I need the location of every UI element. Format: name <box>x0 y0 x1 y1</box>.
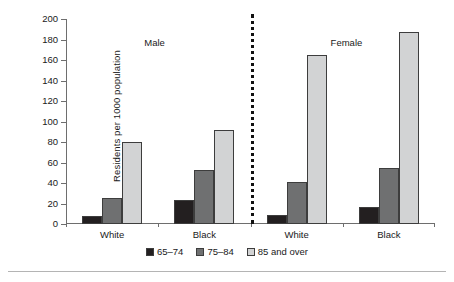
legend-item-label: 85 and over <box>258 246 308 257</box>
y-axis-tick-mark <box>61 81 66 82</box>
y-axis-tick-mark <box>61 40 66 41</box>
chart-legend: 65–7475–8485 and over <box>0 246 454 257</box>
legend-item-0: 65–74 <box>146 246 183 257</box>
bar <box>174 200 194 224</box>
x-axis-tick-mark <box>343 223 344 227</box>
chart-figure: Residents per 1000 population 0204060801… <box>0 0 454 282</box>
legend-item-1: 75–84 <box>196 246 233 257</box>
y-axis-tick-label: 160 <box>42 54 58 65</box>
panel-label-male: Male <box>144 37 165 48</box>
y-axis-tick-mark <box>61 101 66 102</box>
bar <box>194 170 214 224</box>
y-axis-tick-label: 80 <box>47 136 58 147</box>
y-axis-tick-mark <box>61 19 66 20</box>
bar <box>122 142 142 224</box>
legend-item-label: 75–84 <box>207 246 233 257</box>
bar <box>359 207 379 224</box>
legend-swatch-icon <box>146 248 154 256</box>
x-axis-label-black-3: Black <box>377 229 400 240</box>
x-axis-tick-mark <box>66 223 67 227</box>
bar <box>267 215 287 224</box>
y-axis-tick-label: 20 <box>47 198 58 209</box>
x-axis-tick-mark <box>158 223 159 227</box>
y-axis-tick-mark <box>61 142 66 143</box>
x-axis-label-white-2: White <box>284 229 308 240</box>
y-axis-tick-mark <box>61 163 66 164</box>
panel-label-female: Female <box>331 37 363 48</box>
y-axis-line <box>66 19 67 224</box>
y-axis-tick-label: 100 <box>42 116 58 127</box>
y-axis-tick-label: 120 <box>42 95 58 106</box>
bar <box>287 182 307 224</box>
legend-swatch-icon <box>196 248 204 256</box>
y-axis-tick-label: 200 <box>42 13 58 24</box>
bar <box>399 32 419 224</box>
y-axis-tick-mark <box>61 60 66 61</box>
plot-area: 020406080100120140160180200 WhiteBlackWh… <box>66 19 435 224</box>
bottom-divider-rule <box>8 271 446 272</box>
bar <box>379 168 399 224</box>
bar <box>307 55 327 224</box>
y-axis-tick-label: 60 <box>47 157 58 168</box>
bar <box>214 130 234 224</box>
x-axis-label-black-1: Black <box>193 229 216 240</box>
y-axis-tick-label: 180 <box>42 34 58 45</box>
y-axis-tick-mark <box>61 204 66 205</box>
y-axis-tick-mark <box>61 183 66 184</box>
panel-divider <box>251 14 254 224</box>
x-axis-tick-mark <box>434 223 435 227</box>
x-axis-label-white-0: White <box>100 229 124 240</box>
y-axis-tick-label: 140 <box>42 75 58 86</box>
bar <box>82 216 102 224</box>
legend-item-2: 85 and over <box>247 246 308 257</box>
y-axis-tick-label: 0 <box>53 218 58 229</box>
y-axis-tick-mark <box>61 122 66 123</box>
legend-swatch-icon <box>247 248 255 256</box>
legend-item-label: 65–74 <box>157 246 183 257</box>
bar <box>102 198 122 224</box>
y-axis-tick-label: 40 <box>47 177 58 188</box>
